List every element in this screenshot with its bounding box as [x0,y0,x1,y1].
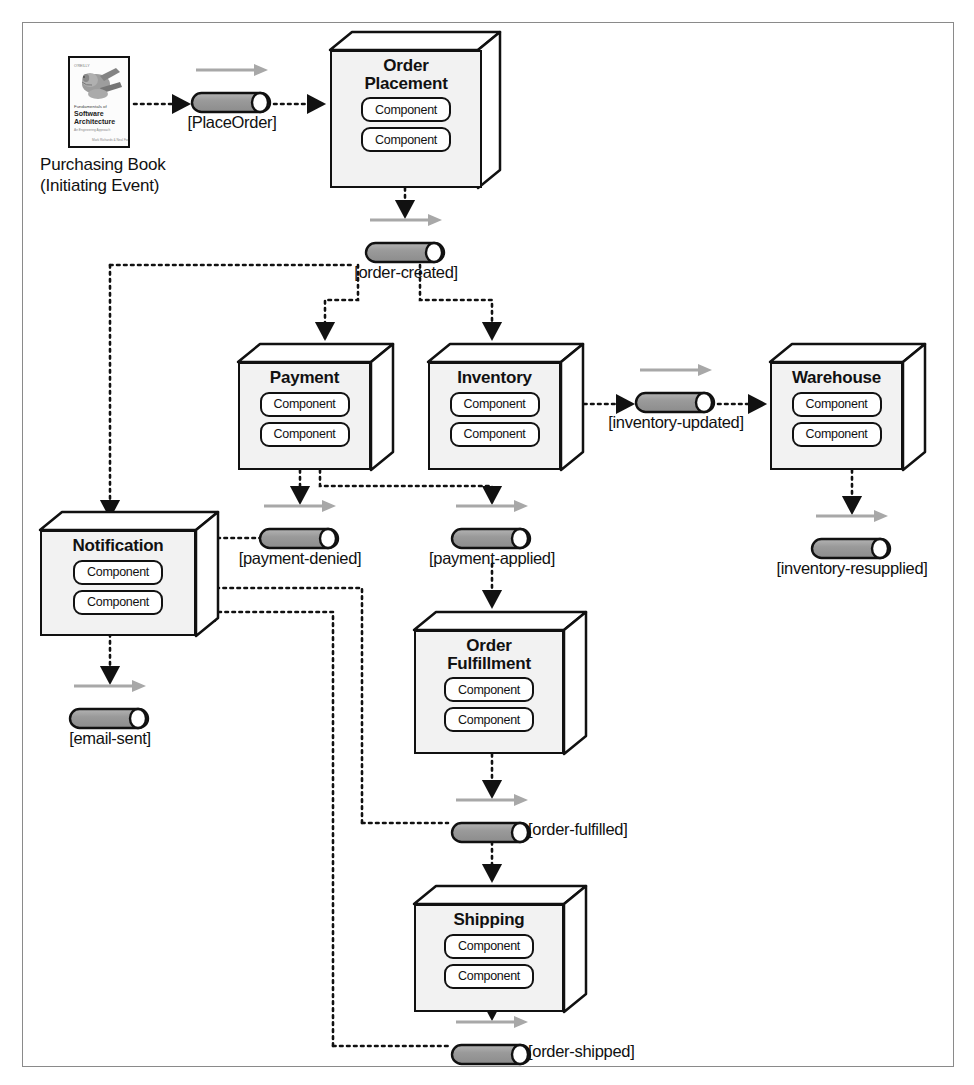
event-arrow-icon [450,1014,534,1042]
service-title-line2: Placement [364,74,447,93]
service-title: Shipping [453,911,524,929]
event-arrow-icon [68,678,152,706]
event-arrow-icon [810,508,894,536]
component-chip[interactable]: Component [792,392,882,417]
component-label: Component [458,939,520,953]
event-arrow-icon [450,498,534,526]
component-label: Component [458,683,520,697]
component-chip[interactable]: Component [73,590,163,615]
component-label: Component [806,397,868,411]
component-label: Component [274,397,336,411]
event-label: [PlaceOrder] [187,113,276,132]
component-label: Component [464,427,526,441]
service-box-warehouse[interactable]: Warehouse Component Component [770,344,925,470]
component-chip[interactable]: Component [450,392,540,417]
component-chip[interactable]: Component [260,422,350,447]
book-cover-image: O'REILLY Fundamentals of Software Archit… [68,56,130,148]
service-title-line1: Inventory [457,368,532,387]
event-label: [inventory-updated] [608,413,744,432]
event-label: [email-sent] [69,729,151,748]
book-cover-art: O'REILLY Fundamentals of Software Archit… [70,58,128,146]
box-front-face: Notification Component Component [40,530,196,636]
service-box-shipping[interactable]: Shipping Component Component [414,886,586,1012]
component-label: Component [375,133,437,147]
svg-text:Architecture: Architecture [74,118,115,125]
component-chip[interactable]: Component [792,422,882,447]
service-title-line1: Notification [72,536,163,555]
component-label: Component [87,565,149,579]
component-chip[interactable]: Component [450,422,540,447]
box-front-face: Order Placement Component Component [330,50,482,188]
box-front-face: Order Fulfillment Component Component [414,630,564,754]
service-title: Order Placement [364,57,447,92]
component-chip[interactable]: Component [361,127,451,152]
component-label: Component [375,103,437,117]
service-title: Warehouse [792,369,881,387]
book-caption-line1: Purchasing Book [40,154,220,175]
event-label: [order-created] [354,263,458,282]
service-box-order-fulfillment[interactable]: Order Fulfillment Component Component [414,612,586,754]
event-label: [order-fulfilled] [528,820,627,839]
event-arrow-icon [258,498,342,526]
service-box-order-placement[interactable]: Order Placement Component Component [330,32,500,188]
component-chip[interactable]: Component [444,964,534,989]
svg-text:Software: Software [74,110,104,117]
component-chip[interactable]: Component [444,707,534,732]
service-box-payment[interactable]: Payment Component Component [238,344,393,470]
event-label: [payment-denied] [239,549,362,568]
event-cylinder-icon [450,820,534,846]
event-label: [inventory-resupplied] [776,559,927,578]
service-title-line1: Order [466,636,511,655]
event-cylinder-icon [450,1042,534,1068]
event-arrow-icon [634,362,718,390]
service-box-inventory[interactable]: Inventory Component Component [428,344,583,470]
component-label: Component [458,713,520,727]
service-title: Order Fulfillment [447,637,531,672]
purchasing-book-caption: Purchasing Book (Initiating Event) [40,154,220,196]
component-label: Component [458,969,520,983]
box-front-face: Warehouse Component Component [770,362,903,470]
event-arrow-icon [190,62,274,90]
component-chip[interactable]: Component [260,392,350,417]
component-label: Component [274,427,336,441]
service-title-line1: Shipping [453,910,524,929]
service-title-line1: Order [383,56,428,75]
component-chip[interactable]: Component [444,934,534,959]
service-title-line2: Fulfillment [447,654,531,673]
service-title: Payment [270,369,339,387]
book-caption-line2: (Initiating Event) [40,175,220,196]
component-label: Component [87,595,149,609]
box-front-face: Payment Component Component [238,362,371,470]
svg-text:Fundamentals of: Fundamentals of [74,104,107,109]
svg-text:An Engineering Approach: An Engineering Approach [74,128,110,132]
component-chip[interactable]: Component [73,560,163,585]
event-arrow-icon [364,212,448,240]
box-front-face: Inventory Component Component [428,362,561,470]
event-arrow-icon [450,792,534,820]
component-label: Component [464,397,526,411]
service-title: Notification [72,537,163,555]
event-label: [order-shipped] [528,1042,634,1061]
component-chip[interactable]: Component [361,97,451,122]
svg-text:Mark Richards & Neal Ford: Mark Richards & Neal Ford [92,138,128,142]
service-title-line1: Warehouse [792,368,881,387]
service-box-notification[interactable]: Notification Component Component [40,512,218,636]
svg-text:O'REILLY: O'REILLY [74,64,90,68]
service-title: Inventory [457,369,532,387]
event-label: [payment-applied] [429,549,555,568]
box-front-face: Shipping Component Component [414,904,564,1012]
purchasing-book: O'REILLY Fundamentals of Software Archit… [68,56,130,148]
service-title-line1: Payment [270,368,339,387]
component-label: Component [806,427,868,441]
component-chip[interactable]: Component [444,677,534,702]
